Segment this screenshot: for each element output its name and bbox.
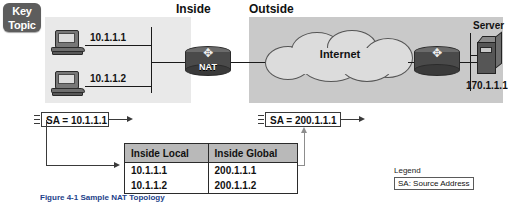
pc-monitor xyxy=(55,30,79,48)
cloud-label: Internet xyxy=(265,48,415,60)
outside-zone-label: Outside xyxy=(249,2,294,16)
figure-caption: Figure 4-1 Sample NAT Topology xyxy=(40,193,340,202)
key-topic-badge: Key Topic xyxy=(3,3,41,32)
packet-outside-arrow-line xyxy=(341,119,359,120)
router-icon-edge: ✥ xyxy=(414,46,460,76)
packet-inside-arrow-head xyxy=(127,116,133,122)
router-icon-nat: ✥ NAT xyxy=(185,46,231,76)
server-label: Server xyxy=(473,20,504,31)
cell-inside-global-1: 200.1.1.1 xyxy=(208,163,297,179)
pc-keyboard xyxy=(52,92,83,96)
router-bottom xyxy=(414,64,460,76)
lan-bus-line xyxy=(151,27,152,93)
server-ip-label: 170.1.1.1 xyxy=(466,80,508,91)
server-drive-slot xyxy=(480,47,492,53)
table-to-packet-arrow-head xyxy=(301,127,307,133)
pc1-link-line xyxy=(85,45,151,46)
table-to-packet-vline xyxy=(304,133,305,166)
key-topic-line2: Topic xyxy=(3,18,41,32)
packet-to-table-vline xyxy=(46,120,47,165)
column-header-inside-local: Inside Local xyxy=(125,144,208,163)
cell-inside-global-2: 200.1.1.2 xyxy=(208,178,297,193)
packet-outside-arrow-head xyxy=(359,116,365,122)
legend-title: Legend xyxy=(394,166,474,175)
pc2-ip-label: 10.1.1.2 xyxy=(90,73,126,84)
table-row: 10.1.1.1 200.1.1.1 xyxy=(125,163,297,179)
packet-outside-box: SA = 200.1.1.1 xyxy=(265,112,341,127)
pc-screen xyxy=(58,74,75,84)
pc-keyboard xyxy=(52,51,83,55)
server-side-face xyxy=(495,32,502,69)
cloud-icon-internet: Internet xyxy=(265,30,415,82)
router-edge-right xyxy=(459,52,460,70)
nat-router-label: NAT xyxy=(185,62,231,72)
router-arrows-icon: ✥ xyxy=(193,47,223,59)
table-row: 10.1.1.2 200.1.1.2 xyxy=(125,178,297,193)
packet-inside-box: SA = 10.1.1.1 xyxy=(41,112,109,127)
lan-to-nat-line xyxy=(151,62,185,63)
cell-inside-local-1: 10.1.1.1 xyxy=(125,163,208,179)
pc2-link-line xyxy=(85,86,151,87)
column-header-inside-global: Inside Global xyxy=(208,144,297,163)
legend: Legend SA: Source Address xyxy=(394,166,474,190)
cell-inside-local-2: 10.1.1.2 xyxy=(125,178,208,193)
router-arrows-icon: ✥ xyxy=(422,47,452,59)
nat-translation-table: Inside Local Inside Global 10.1.1.1 200.… xyxy=(124,143,298,194)
packet-to-table-arrow-head xyxy=(114,162,120,168)
pc1-ip-label: 10.1.1.1 xyxy=(90,32,126,43)
server-icon xyxy=(477,36,503,74)
table-header-row: Inside Local Inside Global xyxy=(125,144,297,163)
pc-icon-2 xyxy=(51,71,85,97)
packet-inside-arrow-line xyxy=(109,119,127,120)
inside-zone-label: Inside xyxy=(176,2,211,16)
pc-screen xyxy=(58,33,75,43)
legend-entry-sa: SA: Source Address xyxy=(394,177,474,190)
packet-to-table-hline xyxy=(46,165,114,166)
key-topic-line1: Key xyxy=(3,4,41,18)
pc-monitor xyxy=(55,71,79,89)
pc-icon-1 xyxy=(51,30,85,56)
